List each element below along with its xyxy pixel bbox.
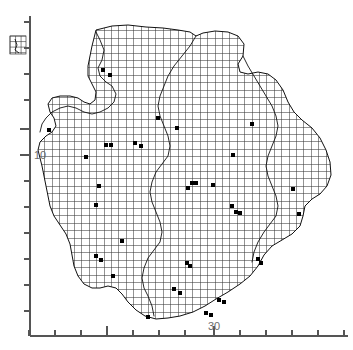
x-axis-tick-label: 30	[208, 320, 220, 332]
chart-background	[0, 0, 353, 350]
y-axis-tick-label: 10	[34, 149, 46, 161]
chart-canvas: 30 10	[0, 0, 353, 350]
figure-root: 30 10	[0, 0, 353, 350]
